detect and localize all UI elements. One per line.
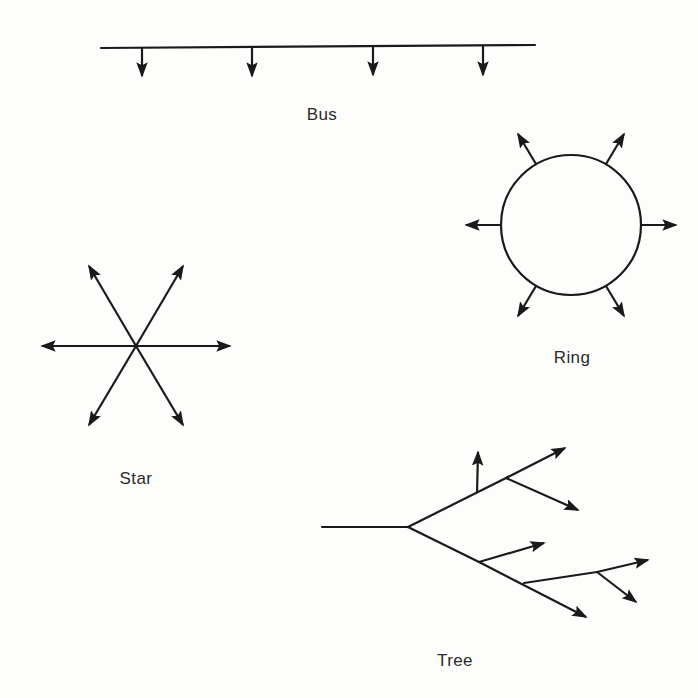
star-arm-southeast: [136, 346, 183, 425]
bus-backbone-line: [101, 45, 535, 48]
star-arm-northwest: [89, 266, 136, 346]
tree-lower-sub-up-leaf: [597, 560, 648, 572]
ring-circle: [501, 155, 641, 295]
tree-upper-fork-down-leaf: [506, 478, 578, 510]
tree-label: Tree: [437, 651, 473, 671]
ring-spoke-southeast: [606, 286, 624, 316]
ring-spoke-northeast: [606, 134, 624, 164]
ring-spoke-southwest: [518, 286, 536, 316]
tree-lower-branch: [408, 527, 479, 562]
diagram-page: Bus Ring Star Tree: [0, 0, 698, 698]
network-topologies-diagram: [0, 0, 698, 698]
ring-topology-group: [466, 134, 676, 316]
tree-lower-sub-down-leaf: [597, 572, 636, 602]
star-topology-group: [42, 266, 230, 425]
tree-lower-sub-branch: [524, 572, 597, 583]
star-label: Star: [120, 469, 153, 489]
star-arm-southwest: [89, 346, 136, 425]
bus-topology-group: [101, 45, 535, 76]
tree-lower-branch-down-leaf: [479, 562, 586, 617]
bus-label: Bus: [307, 105, 338, 125]
tree-lower-stem-up-leaf: [479, 543, 544, 562]
tree-upper-branch: [408, 477, 508, 527]
ring-label: Ring: [554, 348, 591, 368]
star-arm-northeast: [136, 266, 183, 346]
tree-upper-fork-up-leaf: [506, 448, 565, 478]
ring-spoke-northwest: [518, 134, 536, 164]
tree-topology-group: [322, 448, 648, 617]
tree-upper-stem-leaf: [477, 452, 478, 493]
